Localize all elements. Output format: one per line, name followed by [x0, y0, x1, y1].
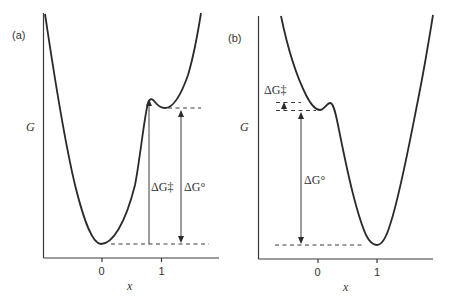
- panel-a: (a) G 0 1 x ΔG‡ ΔG°: [12, 13, 219, 293]
- panel-b-activation-arrowhead-icon: [281, 102, 287, 109]
- panel-b-label: (b): [228, 32, 241, 44]
- panel-a-standard-label: ΔG°: [184, 180, 205, 194]
- panel-b-standard-arrowhead-down-icon: [298, 237, 304, 244]
- panel-b-x-axis-label: x: [342, 280, 349, 294]
- panel-a-activation-arrowhead-icon: [146, 99, 152, 106]
- panel-b-tick-label-0: 0: [315, 266, 321, 278]
- free-energy-diagram: (a) G 0 1 x ΔG‡ ΔG° (b) G 0 1: [0, 0, 449, 304]
- panel-b-standard-arrowhead-up-icon: [298, 112, 304, 119]
- panel-b-energy-curve: [281, 15, 433, 245]
- panel-b-y-axis-label: G: [240, 120, 249, 134]
- panel-b: (b) G 0 1 x ΔG‡ ΔG°: [228, 15, 433, 294]
- panel-b-activation-label: ΔG‡: [264, 83, 286, 97]
- panel-a-tick-label-0: 0: [99, 265, 105, 277]
- panel-a-tick-label-1: 1: [159, 265, 165, 277]
- panel-a-standard-arrowhead-up-icon: [178, 110, 184, 117]
- panel-a-activation-label: ΔG‡: [151, 180, 173, 194]
- panel-a-standard-arrowhead-down-icon: [178, 236, 184, 243]
- panel-b-tick-label-1: 1: [374, 266, 380, 278]
- panel-a-label: (a): [12, 29, 25, 41]
- panel-a-y-axis-label: G: [26, 120, 35, 134]
- panel-a-energy-curve: [45, 13, 201, 244]
- panel-b-standard-label: ΔG°: [304, 173, 325, 187]
- panel-a-x-axis-label: x: [126, 279, 133, 293]
